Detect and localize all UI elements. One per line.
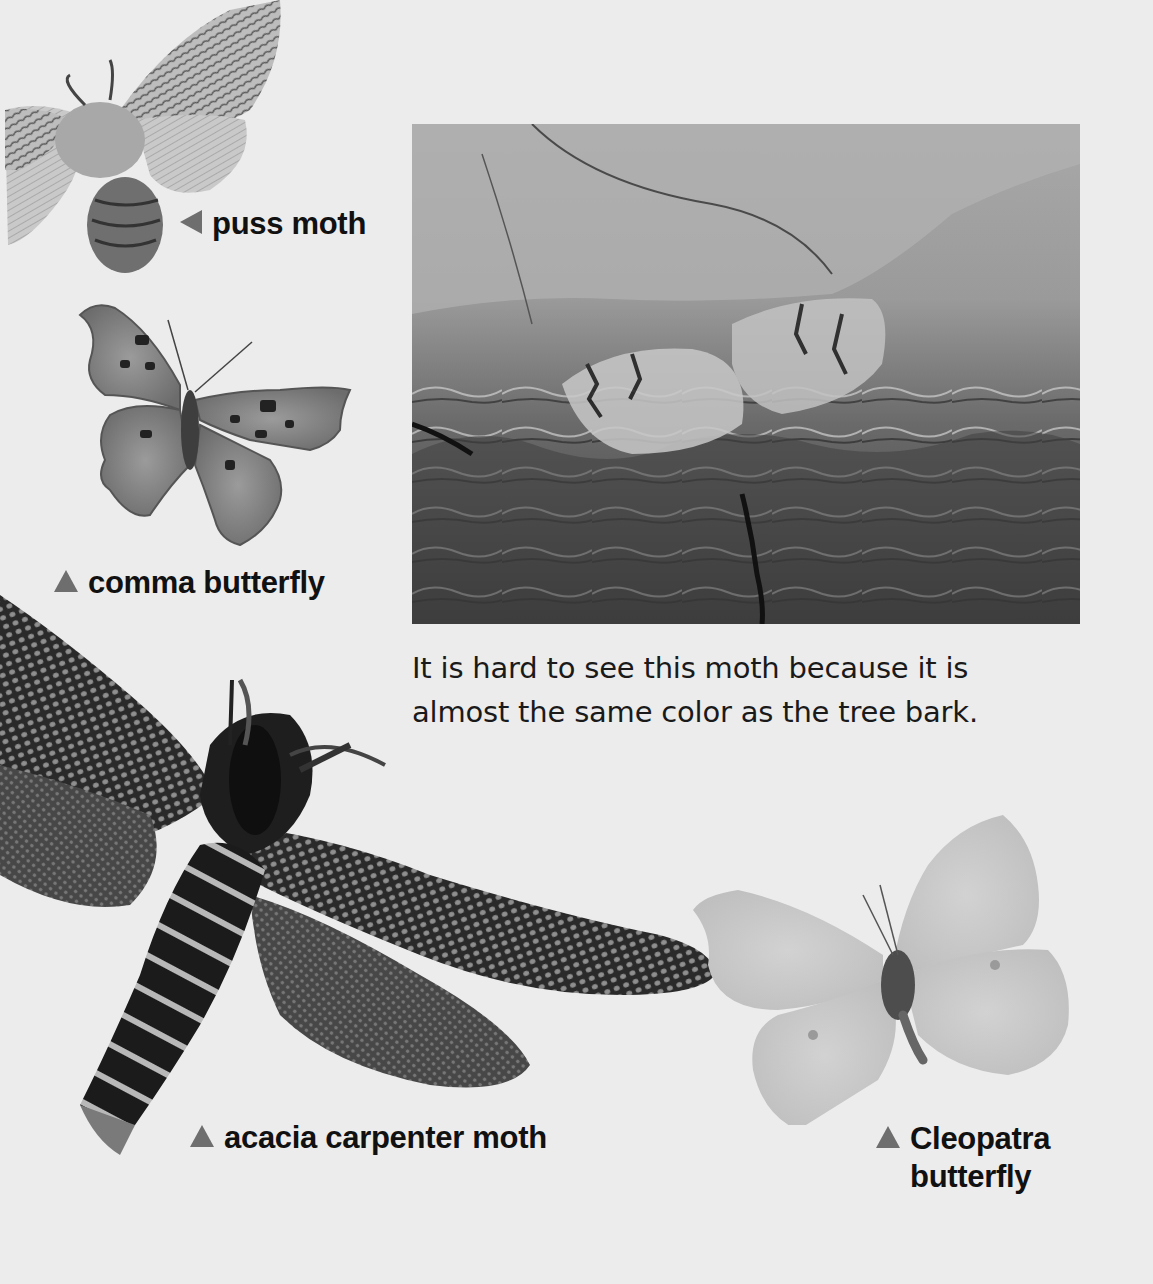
up-triangle-marker-icon [54, 570, 78, 592]
up-triangle-marker-icon [876, 1126, 900, 1148]
bark-photo [412, 124, 1080, 624]
left-triangle-marker-icon [180, 210, 202, 234]
acacia-carpenter-moth-photo [0, 595, 725, 1175]
acacia-carpenter-moth-illustration [0, 595, 725, 1175]
acacia-carpenter-moth-caption: acacia carpenter moth [190, 1119, 547, 1157]
comma-butterfly-illustration [40, 290, 360, 555]
cleopatra-butterfly-caption: Cleopatra butterfly [876, 1120, 1050, 1196]
cleopatra-butterfly-photo [688, 785, 1088, 1125]
cleopatra-butterfly-label-line-1: Cleopatra [910, 1121, 1050, 1156]
up-triangle-marker-icon [190, 1125, 214, 1147]
tree-bark-moth-illustration [412, 124, 1080, 624]
cleopatra-butterfly-label-line-2: butterfly [876, 1158, 1050, 1196]
acacia-carpenter-moth-label: acacia carpenter moth [224, 1120, 547, 1155]
puss-moth-caption: puss moth [180, 205, 366, 243]
cleopatra-butterfly-illustration [688, 785, 1088, 1125]
comma-butterfly-photo [40, 290, 360, 555]
puss-moth-label: puss moth [212, 206, 366, 241]
